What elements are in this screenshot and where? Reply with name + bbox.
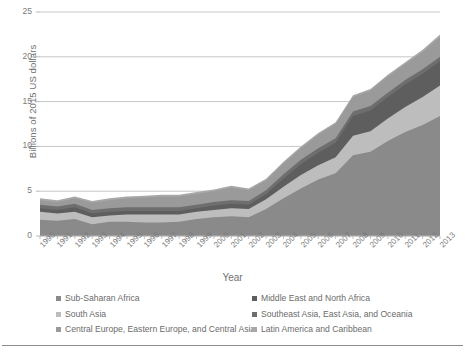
- legend-row: Central Europe, Eastern Europe, and Cent…: [56, 322, 456, 338]
- legend-item[interactable]: Middle East and North Africa: [252, 291, 456, 307]
- legend-label: Latin America and Caribbean: [261, 325, 372, 334]
- legend-label: Sub-Saharan Africa: [65, 294, 140, 303]
- y-tick-label: 25: [10, 6, 32, 16]
- figure-container: Billions of 2015 US dollars 0510152025 1…: [0, 0, 465, 361]
- legend-swatch-icon: [56, 312, 61, 317]
- y-tick-label: 10: [10, 140, 32, 150]
- stacked-area-chart: [0, 0, 465, 250]
- bottom-divider: [2, 345, 463, 346]
- chart-legend: Sub-Saharan AfricaMiddle East and North …: [56, 291, 456, 338]
- legend-item[interactable]: Southeast Asia, East Asia, and Oceania: [252, 307, 456, 323]
- legend-swatch-icon: [252, 296, 257, 301]
- legend-row: South AsiaSoutheast Asia, East Asia, and…: [56, 307, 456, 323]
- legend-item[interactable]: Sub-Saharan Africa: [56, 291, 252, 307]
- legend-row: Sub-Saharan AfricaMiddle East and North …: [56, 291, 456, 307]
- y-tick-label: 20: [10, 51, 32, 61]
- x-axis-title: Year: [0, 272, 465, 283]
- legend-swatch-icon: [252, 327, 257, 332]
- legend-swatch-icon: [56, 327, 61, 332]
- legend-label: South Asia: [65, 310, 106, 319]
- legend-item[interactable]: Latin America and Caribbean: [252, 322, 456, 338]
- legend-label: Middle East and North Africa: [261, 294, 370, 303]
- legend-label: Central Europe, Eastern Europe, and Cent…: [65, 325, 255, 334]
- y-tick-label: 5: [10, 185, 32, 195]
- y-tick-label: 15: [10, 96, 32, 106]
- legend-item[interactable]: South Asia: [56, 307, 252, 323]
- plot-area: Billions of 2015 US dollars 0510152025 1…: [0, 0, 465, 250]
- legend-swatch-icon: [56, 296, 61, 301]
- legend-item[interactable]: Central Europe, Eastern Europe, and Cent…: [56, 322, 252, 338]
- legend-label: Southeast Asia, East Asia, and Oceania: [261, 310, 412, 319]
- y-tick-label: 0: [10, 230, 32, 240]
- legend-swatch-icon: [252, 312, 257, 317]
